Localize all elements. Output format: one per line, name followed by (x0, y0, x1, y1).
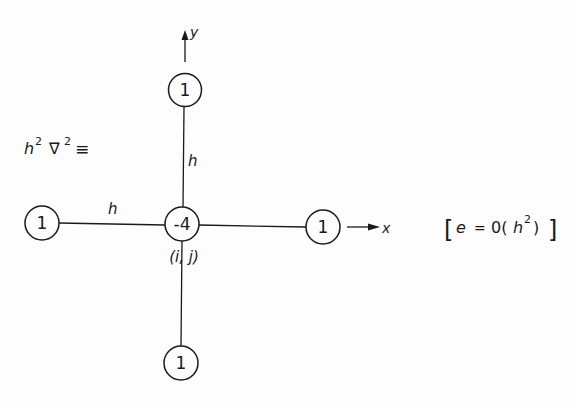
node-bottom-value: 1 (176, 353, 187, 373)
error-term: [ e = 0( h 2 ) ] (444, 213, 557, 244)
center-index-label: (i, j) (169, 248, 199, 266)
nabla-icon: ∇ (48, 139, 60, 158)
error-sup: 2 (524, 213, 531, 226)
node-center-value: -4 (174, 214, 191, 234)
operator-h: h (24, 139, 34, 158)
error-open-bracket: [ (444, 216, 453, 244)
y-axis-arrowhead-icon (182, 30, 189, 40)
operator-sup1: 2 (35, 135, 42, 148)
error-close-paren: ) (533, 218, 539, 237)
vertical-spacing-label: h (188, 152, 198, 170)
stencil-line-vertical-upper (183, 107, 184, 207)
five-point-stencil-diagram: 1 -4 1 1 1 (i, j) y x h h h 2 ∇ 2 ≡ [ e … (0, 0, 576, 408)
node-left-value: 1 (37, 213, 48, 233)
error-close-bracket: ] (548, 216, 557, 244)
node-right-value: 1 (318, 217, 329, 237)
error-h: h (513, 218, 523, 237)
error-order: 0( (491, 218, 507, 237)
error-eq: = (474, 220, 486, 236)
error-e: e (456, 218, 466, 237)
node-top-value: 1 (180, 80, 191, 100)
equiv-icon: ≡ (75, 139, 89, 159)
operator-label: h 2 ∇ 2 ≡ (24, 135, 89, 159)
stencil-line-horizontal-right (199, 225, 306, 227)
y-axis-label: y (189, 24, 199, 40)
x-axis-label: x (381, 220, 391, 236)
operator-sup2: 2 (64, 135, 71, 148)
x-axis-arrowhead-icon (368, 224, 380, 231)
stencil-line-horizontal-left (59, 223, 165, 225)
horizontal-spacing-label: h (108, 200, 118, 218)
